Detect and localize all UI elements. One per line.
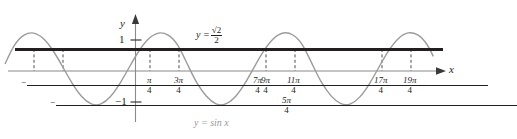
sine-curve-label: y = sin x	[194, 118, 229, 128]
x-tick-label-neg-5pi-4: − 5π 4	[56, 96, 517, 116]
y-tick-label-1: 1	[119, 34, 125, 45]
fraction-denominator: 2	[211, 36, 222, 45]
x-tick-label-17pi-4: 17π 4	[373, 76, 389, 96]
intersection-guides	[34, 49, 411, 71]
fraction-denominator: 4	[286, 86, 301, 95]
fraction-denominator: 4	[173, 86, 184, 95]
fraction-denominator: 4	[56, 106, 517, 115]
fraction-denominator: 4	[373, 86, 389, 95]
minus-sign: −	[21, 78, 26, 87]
fraction-denominator: 4	[27, 86, 488, 95]
x-tick-label-neg-7pi-4: − 7π 4	[27, 76, 488, 96]
x-axis-label: x	[449, 64, 454, 75]
x-axis	[8, 67, 446, 75]
equation-prefix: y =	[196, 29, 210, 40]
sqrt2-over-2-fraction: √22	[211, 26, 222, 46]
x-tick-label-19pi-4: 19π 4	[402, 76, 418, 96]
x-tick-label-11pi-4: 11π 4	[286, 76, 301, 96]
fraction-denominator: 4	[402, 86, 418, 95]
y-axis-label: y	[120, 18, 125, 29]
fraction-denominator: 4	[260, 86, 271, 95]
x-tick-label-9pi-4: 9π 4	[260, 76, 271, 96]
fraction-denominator: 4	[146, 86, 153, 95]
x-tick-label-pi-4: π 4	[146, 76, 153, 96]
minus-sign: −	[50, 98, 55, 107]
x-tick-label-3pi-4: 3π 4	[173, 76, 184, 96]
horizontal-line-equation-label: y =√22	[196, 26, 222, 46]
